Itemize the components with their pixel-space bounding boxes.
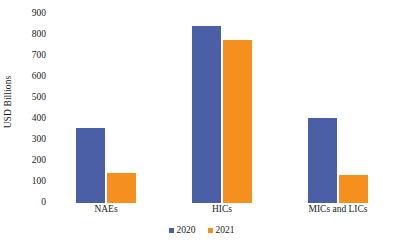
plot-area: NAEs HICs MICs and LICs <box>48 14 396 203</box>
x-tick-label-hics: HICs <box>212 205 232 215</box>
bar-chart: USD Billions 900 800 700 600 500 400 300… <box>0 0 403 245</box>
legend-item-2021[interactable]: 2021 <box>208 226 235 236</box>
y-tick-label: 300 <box>32 135 46 145</box>
bar-group-hics: HICs <box>164 14 280 203</box>
y-tick-label: 200 <box>32 156 46 166</box>
x-tick-label-naes: NAEs <box>94 205 117 215</box>
bar-mics-and-lics-2020[interactable] <box>308 118 337 203</box>
bars-row <box>164 14 280 203</box>
y-axis-title: USD Billions <box>0 0 16 203</box>
y-tick-label: 400 <box>32 114 46 124</box>
legend-label-2021: 2021 <box>216 226 235 236</box>
y-tick-label: 900 <box>32 9 46 19</box>
y-axis-tick-labels: 900 800 700 600 500 400 300 200 100 0 <box>16 14 46 203</box>
y-tick-label: 800 <box>32 30 46 40</box>
bar-hics-2020[interactable] <box>192 26 221 203</box>
y-axis-title-label: USD Billions <box>3 75 13 128</box>
y-tick-label: 600 <box>32 72 46 82</box>
bar-group-mics-and-lics: MICs and LICs <box>280 14 396 203</box>
x-tick-label-mics-and-lics: MICs and LICs <box>308 205 367 215</box>
bar-hics-2021[interactable] <box>223 40 252 203</box>
y-tick-label: 100 <box>32 177 46 187</box>
bar-naes-2020[interactable] <box>76 128 105 203</box>
y-tick-label: 500 <box>32 93 46 103</box>
bar-mics-and-lics-2021[interactable] <box>339 175 368 203</box>
legend-swatch-2021-icon <box>208 228 213 233</box>
legend-swatch-2020-icon <box>169 228 174 233</box>
bar-group-naes: NAEs <box>48 14 164 203</box>
legend: 2020 2021 <box>0 226 403 236</box>
legend-label-2020: 2020 <box>177 226 196 236</box>
y-tick-label: 0 <box>41 198 46 208</box>
bars-row <box>280 14 396 203</box>
bars-row <box>48 14 164 203</box>
y-tick-label: 700 <box>32 51 46 61</box>
bar-naes-2021[interactable] <box>107 173 136 203</box>
legend-item-2020[interactable]: 2020 <box>169 226 196 236</box>
